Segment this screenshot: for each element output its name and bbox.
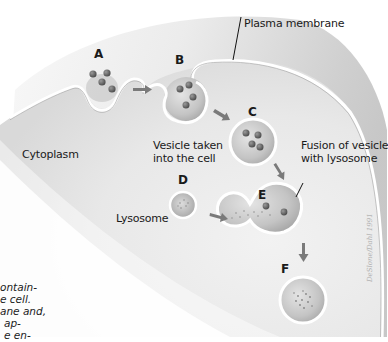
vesicle-f	[280, 277, 326, 323]
stage-label-b: B	[175, 53, 184, 67]
fusion-label-line2: with lysosome	[301, 152, 377, 165]
artist-signature: DeSlone/Dahl 1991	[366, 213, 374, 282]
stage-label-f: F	[281, 262, 289, 276]
vesicle-taken-label-line2: into the cell	[153, 152, 215, 165]
fusion-label-line1: Fusion of vesicle	[301, 139, 388, 152]
vesicle-taken-label-line1: Vesicle taken	[153, 139, 223, 152]
lysosome-label: Lysosome	[116, 212, 168, 225]
stage-label-e: E	[258, 188, 266, 202]
cytoplasm-label: Cytoplasm	[22, 148, 79, 161]
lysosome-d	[170, 192, 196, 218]
caption-line-2: e cell.	[0, 293, 31, 306]
caption-line-1: ontain-	[0, 281, 37, 294]
stage-label-a: A	[94, 47, 103, 61]
stage-label-c: C	[248, 105, 257, 119]
caption-line-5: e en-	[4, 329, 31, 342]
caption-line-3: ane and,	[0, 305, 46, 318]
plasma-membrane-label: Plasma membrane	[244, 17, 344, 30]
stage-label-d: D	[178, 173, 188, 187]
caption-line-4: ap-	[4, 317, 21, 330]
